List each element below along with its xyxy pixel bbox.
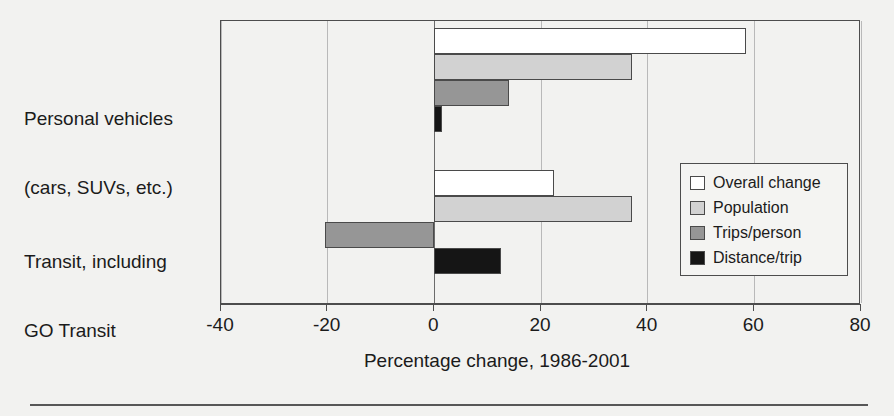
category-label-line: GO Transit xyxy=(24,319,167,342)
x-axis-tick xyxy=(540,304,541,311)
category-label-line: Transit, including xyxy=(24,250,167,273)
chart-figure: Personal vehicles (cars, SUVs, etc.) Tra… xyxy=(0,0,894,416)
bar xyxy=(434,248,501,274)
bar xyxy=(434,170,554,196)
x-axis-tick xyxy=(326,304,327,311)
legend-swatch-icon xyxy=(690,226,705,240)
bar xyxy=(434,196,631,222)
x-axis-tick-label: -20 xyxy=(313,314,340,336)
x-axis-tick xyxy=(753,304,754,311)
bar xyxy=(434,106,442,132)
legend-label: Distance/trip xyxy=(713,249,802,267)
legend-swatch-icon xyxy=(690,176,705,190)
x-axis-tick xyxy=(646,304,647,311)
legend-item-population: Population xyxy=(690,195,847,220)
bar xyxy=(325,222,434,248)
gridline xyxy=(221,21,222,303)
legend-item-trips-person: Trips/person xyxy=(690,220,847,245)
gridline xyxy=(647,21,648,303)
legend-item-overall-change: Overall change xyxy=(690,170,847,195)
x-axis-tick xyxy=(860,304,861,311)
legend-item-distance-trip: Distance/trip xyxy=(690,245,847,270)
gridline xyxy=(327,21,328,303)
x-axis-title-text: Percentage change, 1986-2001 xyxy=(264,350,630,371)
x-axis-tick xyxy=(433,304,434,311)
x-axis-tick-label: 20 xyxy=(529,314,550,336)
x-axis-tick-label: 80 xyxy=(849,314,870,336)
x-axis-tick-label: -40 xyxy=(206,314,233,336)
x-axis-tick xyxy=(220,304,221,311)
bar xyxy=(434,28,746,54)
chart-legend: Overall change Population Trips/person D… xyxy=(680,163,848,276)
legend-label: Overall change xyxy=(713,174,821,192)
legend-label: Population xyxy=(713,199,789,217)
bar xyxy=(434,54,631,80)
x-axis-tick-label: 60 xyxy=(743,314,764,336)
x-axis-tick-label: 40 xyxy=(636,314,657,336)
legend-swatch-icon xyxy=(690,251,705,265)
legend-swatch-icon xyxy=(690,201,705,215)
x-axis-title: Percentage change, 1986-2001 xyxy=(0,350,894,372)
category-label-line: Personal vehicles xyxy=(24,107,173,130)
category-label-line: (cars, SUVs, etc.) xyxy=(24,176,173,199)
legend-label: Trips/person xyxy=(713,224,801,242)
gridline xyxy=(861,21,862,303)
bar xyxy=(434,80,509,106)
footer-divider xyxy=(30,404,868,406)
x-axis-tick-label: 0 xyxy=(428,314,439,336)
